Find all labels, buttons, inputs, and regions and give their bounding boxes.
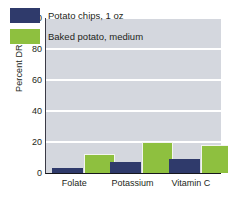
y-axis-tick-label: 60 bbox=[18, 76, 42, 85]
bar-chart: Percent DRI* 020406080100 FolatePotassiu… bbox=[0, 0, 228, 208]
x-axis-tick-label: Vitamin C bbox=[162, 178, 220, 188]
bar-group bbox=[163, 18, 221, 173]
chart-legend: Potato chips, 1 ozBaked potato, medium bbox=[10, 7, 170, 49]
legend-item[interactable]: Potato chips, 1 oz bbox=[10, 7, 170, 24]
legend-label: Baked potato, medium bbox=[48, 31, 143, 42]
bar[interactable] bbox=[52, 168, 83, 173]
x-axis-tick-label: Potassium bbox=[103, 178, 161, 188]
x-axis-tick-label: Folate bbox=[45, 178, 103, 188]
bar[interactable] bbox=[201, 145, 228, 173]
x-axis-tick-labels: FolatePotassiumVitamin C bbox=[45, 178, 220, 194]
bar[interactable] bbox=[169, 159, 200, 173]
legend-label: Potato chips, 1 oz bbox=[48, 10, 124, 21]
y-axis-tick-label: 0 bbox=[18, 169, 42, 178]
legend-swatch bbox=[10, 29, 40, 44]
legend-swatch bbox=[10, 8, 40, 23]
legend-item[interactable]: Baked potato, medium bbox=[10, 28, 170, 45]
y-axis-tick-label: 20 bbox=[18, 138, 42, 147]
y-axis-tick-label: 40 bbox=[18, 107, 42, 116]
bar[interactable] bbox=[110, 162, 141, 173]
